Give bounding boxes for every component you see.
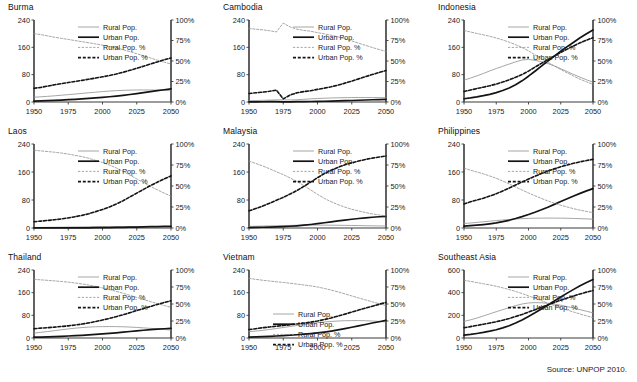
plot-area: 0801602400%25%50%75%100%1950197520002025…	[430, 138, 637, 250]
legend: Rural Pop.Urban Pop.Rural Pop. %Urban Po…	[508, 273, 578, 313]
svg-text:160: 160	[448, 43, 460, 52]
svg-text:75%: 75%	[391, 36, 406, 45]
svg-text:0: 0	[456, 334, 460, 343]
svg-text:240: 240	[18, 16, 30, 25]
svg-text:80: 80	[452, 70, 460, 79]
panel-title: Burma	[8, 2, 34, 12]
svg-text:1950: 1950	[241, 343, 257, 352]
svg-text:0%: 0%	[598, 224, 609, 233]
svg-text:2000: 2000	[94, 107, 110, 116]
legend-label: Urban Pop.	[318, 157, 354, 166]
svg-text:50%: 50%	[598, 182, 613, 191]
panel-title: Thailand	[8, 252, 41, 262]
chart-panel-indonesia: Indonesia0801602400%25%50%75%100%1950197…	[430, 0, 637, 124]
legend-label: Rural Pop.	[318, 147, 352, 156]
svg-text:1950: 1950	[241, 233, 257, 242]
legend-label: Urban Pop.	[103, 33, 139, 42]
svg-text:160: 160	[448, 168, 460, 177]
svg-text:25%: 25%	[598, 77, 613, 86]
svg-text:2025: 2025	[129, 343, 145, 352]
svg-text:100%: 100%	[598, 140, 617, 149]
svg-text:0: 0	[241, 224, 245, 233]
svg-text:50%: 50%	[176, 300, 191, 309]
svg-text:0%: 0%	[598, 334, 609, 343]
svg-text:2050: 2050	[585, 343, 601, 352]
source-note: Source: UNPOP 2010.	[547, 365, 627, 374]
svg-text:75%: 75%	[598, 161, 613, 170]
svg-text:2050: 2050	[585, 233, 601, 242]
svg-text:0%: 0%	[176, 334, 187, 343]
svg-text:0%: 0%	[391, 224, 402, 233]
panel-grid: Burma0801602400%25%50%75%100%19501975200…	[0, 0, 637, 360]
svg-text:160: 160	[18, 43, 30, 52]
svg-text:0%: 0%	[391, 98, 402, 107]
svg-text:25%: 25%	[391, 203, 406, 212]
svg-text:0: 0	[456, 224, 460, 233]
svg-text:2050: 2050	[378, 233, 394, 242]
svg-text:50%: 50%	[176, 57, 191, 66]
svg-text:240: 240	[233, 140, 245, 149]
chart-panel-malaysia: Malaysia0801602400%25%50%75%100%19501975…	[215, 124, 430, 250]
legend-label: Rural Pop.	[103, 23, 137, 32]
plot-area: 0801602400%25%50%75%100%1950197520002025…	[215, 14, 430, 124]
svg-text:240: 240	[448, 16, 460, 25]
svg-text:75%: 75%	[598, 36, 613, 45]
legend-label: Urban Pop. %	[318, 177, 363, 186]
svg-text:1950: 1950	[456, 233, 472, 242]
svg-text:1975: 1975	[60, 107, 76, 116]
svg-text:75%: 75%	[391, 283, 406, 292]
series-line	[464, 218, 593, 223]
svg-text:2000: 2000	[309, 233, 325, 242]
svg-text:2000: 2000	[94, 343, 110, 352]
svg-text:2050: 2050	[378, 343, 394, 352]
svg-text:50%: 50%	[391, 182, 406, 191]
svg-text:240: 240	[18, 266, 30, 275]
legend-label: Urban Pop. %	[103, 177, 148, 186]
svg-text:100%: 100%	[598, 266, 617, 275]
svg-text:80: 80	[237, 70, 245, 79]
svg-text:80: 80	[22, 196, 30, 205]
panel-title: Vietnam	[223, 252, 255, 262]
svg-text:2025: 2025	[344, 107, 360, 116]
legend-label: Rural Pop.	[533, 147, 567, 156]
legend-label: Rural Pop. %	[103, 43, 146, 52]
svg-text:25%: 25%	[598, 317, 613, 326]
legend-label: Urban Pop. %	[318, 53, 363, 62]
svg-text:1975: 1975	[275, 107, 291, 116]
svg-text:2025: 2025	[344, 233, 360, 242]
legend-label: Urban Pop. %	[298, 340, 343, 349]
series-line	[34, 89, 171, 101]
panel-title: Malaysia	[223, 126, 257, 136]
svg-text:80: 80	[22, 70, 30, 79]
svg-text:400: 400	[448, 288, 460, 297]
svg-text:1950: 1950	[456, 107, 472, 116]
svg-text:50%: 50%	[598, 300, 613, 309]
svg-text:160: 160	[233, 168, 245, 177]
series-line	[34, 328, 171, 337]
chart-panel-thailand: Thailand0801602400%25%50%75%100%19501975…	[0, 250, 215, 360]
svg-text:2000: 2000	[520, 233, 536, 242]
svg-text:160: 160	[18, 168, 30, 177]
series-line	[464, 30, 593, 99]
plot-area: 0801602400%25%50%75%100%1950197520002025…	[215, 138, 430, 250]
svg-text:2000: 2000	[520, 107, 536, 116]
svg-text:100%: 100%	[391, 140, 410, 149]
legend-label: Urban Pop.	[318, 33, 354, 42]
svg-text:50%: 50%	[176, 182, 191, 191]
svg-text:75%: 75%	[176, 36, 191, 45]
svg-text:1975: 1975	[60, 233, 76, 242]
svg-text:200: 200	[448, 311, 460, 320]
plot-area: 0801602400%25%50%75%100%1950197520002025…	[430, 14, 637, 124]
legend: Rural Pop.Urban Pop.Rural Pop. %Urban Po…	[78, 147, 148, 187]
svg-text:0: 0	[241, 334, 245, 343]
panel-title: Philippines	[438, 126, 480, 136]
svg-text:240: 240	[233, 266, 245, 275]
legend: Rural Pop.Urban Pop.Rural Pop. %Urban Po…	[293, 23, 363, 63]
svg-text:1950: 1950	[26, 233, 42, 242]
legend-label: Rural Pop.	[318, 23, 352, 32]
legend-label: Urban Pop. %	[103, 53, 148, 62]
legend-label: Urban Pop. %	[533, 303, 578, 312]
legend-label: Urban Pop. %	[533, 177, 578, 186]
svg-text:160: 160	[233, 43, 245, 52]
svg-text:80: 80	[237, 196, 245, 205]
